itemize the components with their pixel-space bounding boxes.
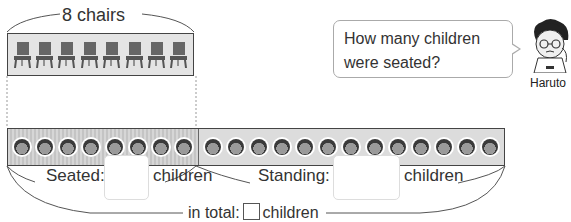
child-face-icon	[434, 137, 454, 157]
child-face-icon	[318, 137, 338, 157]
character-name: Haruto	[530, 76, 566, 90]
seated-answer-box[interactable]	[104, 155, 149, 200]
child-face-icon	[203, 137, 223, 157]
standing-unit: children	[404, 166, 464, 186]
standing-answer-box[interactable]	[333, 155, 400, 200]
child-face-icon	[341, 137, 361, 157]
boy-avatar-icon	[528, 18, 571, 73]
chair-icon	[57, 41, 76, 69]
child-face-icon	[226, 137, 246, 157]
child-face-icon	[365, 137, 385, 157]
chair-icon	[125, 41, 144, 69]
seated-label: Seated:	[46, 166, 105, 186]
chair-icon	[147, 41, 166, 69]
child-face-icon	[174, 137, 194, 157]
child-face-icon	[480, 137, 500, 157]
chair-icon	[80, 41, 99, 69]
chairs-count-label: 8 chairs	[62, 5, 125, 26]
child-face-icon	[81, 137, 101, 157]
total-unit: children	[263, 204, 319, 221]
total-answer-box[interactable]	[243, 203, 260, 220]
child-face-icon	[105, 137, 125, 157]
chair-icon	[102, 41, 121, 69]
child-face-icon	[457, 137, 477, 157]
child-face-icon	[58, 137, 78, 157]
child-face-icon	[35, 137, 55, 157]
children-strip	[7, 128, 505, 166]
total-row: in total:children	[188, 203, 319, 222]
child-face-icon	[12, 137, 32, 157]
chair-icon	[13, 41, 32, 69]
chair-icon	[35, 41, 54, 69]
speech-line-2: were seated?	[344, 51, 502, 75]
standing-label: Standing:	[258, 166, 330, 186]
chairs-box	[7, 33, 194, 76]
speech-line-1: How many children	[344, 27, 502, 51]
chair-icon	[169, 41, 188, 69]
total-label: in total:	[188, 204, 240, 221]
child-face-icon	[272, 137, 292, 157]
seated-unit: children	[153, 166, 213, 186]
speech-bubble: How many children were seated?	[333, 20, 513, 78]
child-face-icon	[151, 137, 171, 157]
child-face-icon	[388, 137, 408, 157]
child-face-icon	[295, 137, 315, 157]
child-face-icon	[249, 137, 269, 157]
child-face-icon	[128, 137, 148, 157]
child-face-icon	[411, 137, 431, 157]
